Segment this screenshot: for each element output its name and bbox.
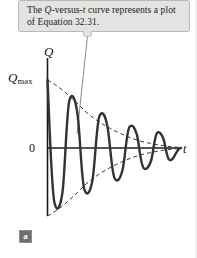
qmax-base: Q bbox=[8, 70, 17, 85]
origin-label: 0 bbox=[29, 141, 35, 156]
caption-tail-pointer bbox=[83, 31, 92, 37]
caption-line1-mid: -versus- bbox=[52, 4, 83, 15]
y-axis-label: Q bbox=[44, 44, 53, 60]
x-axis-label: t bbox=[183, 142, 186, 157]
caption-line1-post: curve represents bbox=[86, 4, 152, 15]
page-scan-edge bbox=[194, 0, 197, 258]
caption-symbol-q: Q bbox=[45, 4, 52, 15]
y-axis-qmax-label: Qmax bbox=[8, 70, 33, 86]
caption-callout: The Q-versus-t curve represents a plot o… bbox=[18, 0, 190, 32]
caption-text: The Q-versus-t curve represents a plot o… bbox=[27, 4, 182, 28]
part-marker-a: a bbox=[19, 230, 32, 243]
q-versus-t-curve bbox=[48, 80, 182, 209]
part-marker-label: a bbox=[23, 232, 28, 241]
qmax-subscript: max bbox=[17, 76, 32, 86]
lower-envelope-curve bbox=[48, 149, 182, 217]
caption-line1-pre: The bbox=[27, 4, 45, 15]
damped-oscillation-plot bbox=[0, 0, 197, 258]
figure-container: The Q-versus-t curve represents a plot o… bbox=[0, 0, 197, 258]
